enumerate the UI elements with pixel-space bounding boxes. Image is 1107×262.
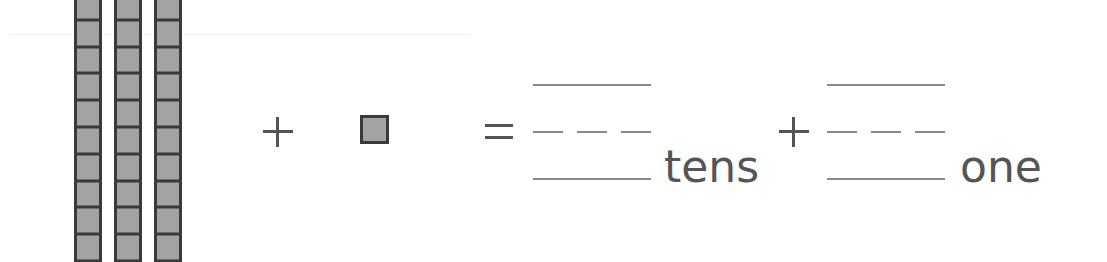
writing-line-top	[533, 84, 651, 86]
writing-line-mid-dash	[871, 131, 901, 133]
writing-line-mid-dash	[915, 131, 945, 133]
writing-line-mid-dash	[621, 131, 651, 133]
equals-sign	[485, 124, 513, 139]
writing-line-top	[827, 84, 945, 86]
plus-sign-1	[263, 117, 293, 147]
ones-label: one	[960, 145, 1042, 189]
tens-rod-3	[154, 0, 182, 262]
ones-cube	[360, 115, 389, 144]
plus-sign-2	[779, 117, 809, 147]
tens-rod-2	[114, 0, 142, 262]
writing-line-mid-dash	[577, 131, 607, 133]
tens-rod-1	[74, 0, 102, 262]
writing-line-mid-dash	[827, 131, 857, 133]
tens-label: tens	[664, 145, 759, 189]
writing-line-mid-dash	[533, 131, 563, 133]
writing-line-bottom	[827, 178, 945, 180]
writing-line-bottom	[533, 178, 651, 180]
